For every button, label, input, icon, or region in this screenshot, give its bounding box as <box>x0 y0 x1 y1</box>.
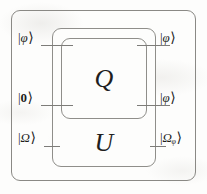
ket-angle: ⟩ <box>176 130 181 145</box>
output-wire-middle <box>137 105 170 106</box>
quantum-circuit-figure: Q U |φ⟩ |0⟩ |Ω⟩ |φ⟩ |φ⟩ |Ωφ⟩ <box>0 0 207 194</box>
input-label-zero: |0⟩ <box>18 91 33 105</box>
ket-angle: ⟩ <box>170 30 175 45</box>
ket-symbol: Ω <box>21 130 30 145</box>
output-wire-top <box>137 45 170 46</box>
input-wire-bottom <box>44 146 60 147</box>
input-wire-top <box>41 45 73 46</box>
ket-symbol: φ <box>21 30 28 45</box>
ket-angle: ⟩ <box>28 90 33 105</box>
ket-symbol: φ <box>163 30 170 45</box>
output-label-phi-2: |φ⟩ <box>160 91 176 105</box>
ket-angle: ⟩ <box>28 30 33 45</box>
output-label-omega-phi: |Ωφ⟩ <box>160 131 182 146</box>
output-label-phi: |φ⟩ <box>160 31 176 45</box>
ket-symbol: 0 <box>21 90 28 105</box>
ket-symbol: φ <box>163 90 170 105</box>
operator-q-label: Q <box>61 66 147 92</box>
input-label-phi: |φ⟩ <box>18 31 34 45</box>
ket-angle: ⟩ <box>31 130 36 145</box>
ket-symbol: Ω <box>163 130 172 145</box>
input-wire-middle <box>41 105 73 106</box>
ket-angle: ⟩ <box>170 90 175 105</box>
operator-u-label: U <box>52 130 156 156</box>
input-label-omega: |Ω⟩ <box>18 131 36 145</box>
